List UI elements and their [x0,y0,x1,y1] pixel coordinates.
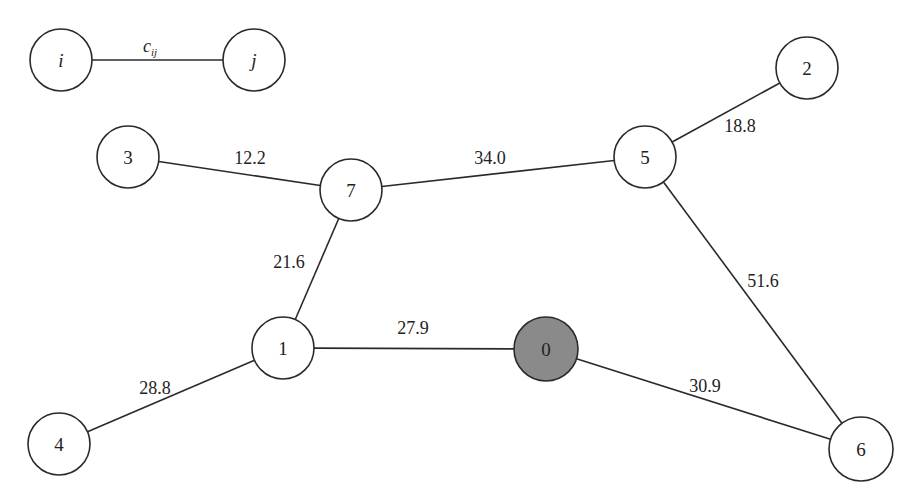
node-0: 0 [514,317,578,381]
legend-edge-label: cij [143,36,157,58]
edge-weight-label: 30.9 [689,376,721,396]
edge-weight-label: 21.6 [273,252,305,272]
node-1: 1 [252,317,314,379]
graph-svg: i j cij 12.234.018.821.651.627.928.830.9… [0,0,912,502]
edge-weight-label: 27.9 [397,318,429,338]
edge-weight-label: 18.8 [724,116,756,136]
node-label: 5 [640,147,650,168]
node-label: 7 [346,180,356,201]
edge-weight-label: 51.6 [747,271,779,291]
edge-1-0 [314,348,514,349]
node-label: 3 [123,147,133,168]
graph-diagram: i j cij 12.234.018.821.651.627.928.830.9… [0,0,912,502]
node-7: 7 [320,159,382,221]
node-label: 2 [802,58,812,79]
edge-1-4 [87,360,254,432]
edges [87,83,841,439]
edge-weight-label: 28.8 [139,378,171,398]
node-4: 4 [28,413,90,475]
node-5: 5 [614,126,676,188]
edge-weight-label: 12.2 [234,148,266,168]
node-6: 6 [829,417,893,481]
node-2: 2 [776,37,838,99]
legend-edge-label-main: c [143,36,151,56]
edge-labels: 12.234.018.821.651.627.928.830.9 [139,116,779,398]
edge-0-6 [577,359,831,440]
edge-weight-label: 34.0 [474,148,506,168]
legend-edge-label-subscript: ij [151,46,157,58]
node-label: 0 [541,339,551,360]
node-label: 1 [278,338,288,359]
legend-node-i-label: i [58,50,63,71]
nodes: 01234567 [28,37,893,481]
legend: i j cij [30,29,285,91]
node-label: 6 [856,439,866,460]
node-label: 4 [54,434,64,455]
node-3: 3 [97,126,159,188]
